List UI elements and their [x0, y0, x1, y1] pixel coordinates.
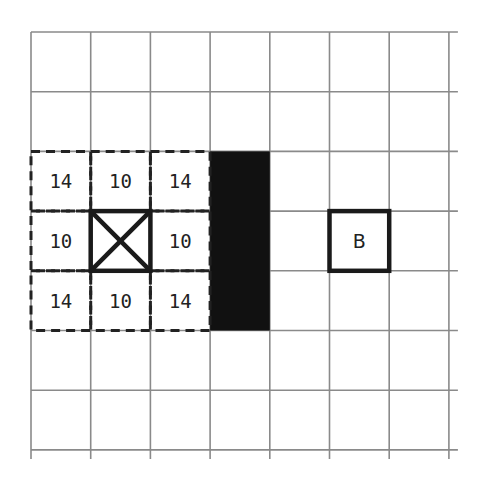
- wall-block: [210, 151, 270, 330]
- cost-label: 14: [49, 290, 72, 312]
- cost-label: 14: [169, 290, 192, 312]
- cost-label: 14: [169, 170, 192, 192]
- goal-cell-b: B: [330, 211, 390, 271]
- cost-label: 10: [169, 230, 192, 252]
- cost-label: 14: [49, 170, 72, 192]
- wall-rect: [210, 151, 270, 330]
- start-cell-x-icon: [91, 211, 151, 271]
- goal-label: B: [353, 230, 366, 252]
- cost-label: 10: [49, 230, 72, 252]
- cost-label: 10: [109, 290, 132, 312]
- cost-label: 10: [109, 170, 132, 192]
- pathfinding-grid-diagram: 1410141010141014 B: [0, 0, 484, 496]
